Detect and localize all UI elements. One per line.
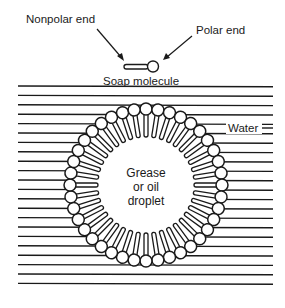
soap-micelle-diagram: Nonpolar end Polar end Soap molecule Wat… xyxy=(0,0,285,308)
droplet-label-line3: droplet xyxy=(128,194,165,208)
diagram-canvas: Nonpolar end Polar end Soap molecule Wat… xyxy=(0,0,285,308)
droplet-label-line1: Grease xyxy=(126,166,166,180)
water-line xyxy=(18,95,273,96)
polar-end-label: Polar end xyxy=(196,24,245,36)
soap-molecule-icon xyxy=(124,61,159,72)
soap-molecule-label: Soap molecule xyxy=(103,75,179,87)
nonpolar-end-label: Nonpolar end xyxy=(26,13,95,25)
water-line xyxy=(18,283,273,284)
nonpolar-arrow-icon xyxy=(97,29,124,61)
droplet-label-line2: or oil xyxy=(133,180,159,194)
water-label: Water xyxy=(228,122,258,134)
polar-arrow-icon xyxy=(163,36,192,60)
water-line xyxy=(18,274,273,275)
